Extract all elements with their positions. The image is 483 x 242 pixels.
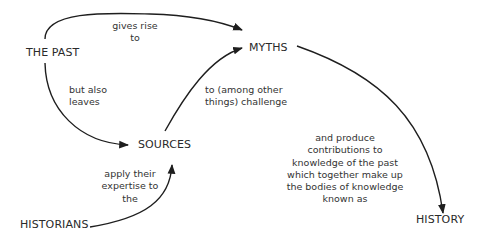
- label-produce-contributions: and produce contributions to knowledge o…: [285, 132, 405, 206]
- node-history: HISTORY: [416, 213, 464, 226]
- label-among-other-things-challenge: to (among other things) challenge: [205, 84, 287, 109]
- label-but-also-leaves: but also leaves: [69, 84, 107, 109]
- node-myths: MYTHS: [249, 41, 288, 54]
- node-the-past: THE PAST: [26, 46, 79, 59]
- label-gives-rise-to: gives rise to: [110, 20, 160, 45]
- node-historians: HISTORIANS: [20, 218, 89, 231]
- node-sources: SOURCES: [138, 138, 191, 151]
- arrows-layer: [0, 0, 483, 242]
- history-concept-diagram: THE PAST MYTHS SOURCES HISTORIANS HISTOR…: [0, 0, 483, 242]
- label-apply-expertise: apply their expertise to the: [95, 168, 165, 205]
